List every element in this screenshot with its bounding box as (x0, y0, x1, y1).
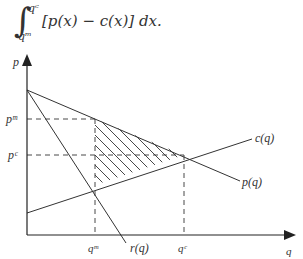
qc-label: qᶜ (178, 242, 188, 254)
monopoly-diagram: p q pᵐ pᶜ qᵐ qᶜ c(q) p(q) r(q) (0, 0, 303, 259)
pm-label: pᵐ (5, 112, 18, 126)
demand-curve-p (27, 90, 240, 181)
deadweight-loss-hatching (10, 90, 260, 210)
c-curve-label: c(q) (255, 131, 274, 145)
y-axis-label: p (12, 55, 19, 69)
qm-label: qᵐ (88, 242, 99, 254)
x-axis-label: q (286, 245, 292, 257)
p-curve-label: p(q) (241, 175, 262, 189)
pc-label: pᶜ (7, 148, 18, 162)
r-curve-label: r(q) (130, 241, 149, 255)
y-axis-arrow-icon (22, 54, 32, 66)
marginal-revenue-curve-r (27, 90, 126, 243)
x-axis-arrow-icon (284, 230, 296, 240)
